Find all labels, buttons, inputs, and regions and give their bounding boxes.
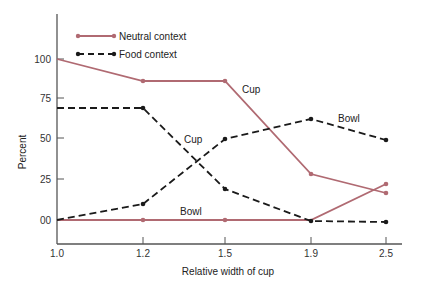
legend: Neutral context Food context (76, 31, 187, 60)
x-tick-label: 1.0 (50, 248, 64, 259)
y-tick-label: 25 (40, 174, 52, 185)
annotation-food-cup: Cup (184, 134, 203, 145)
annotation-neutral-cup: Cup (242, 84, 261, 95)
annotation-food-bowl: Bowl (338, 113, 360, 124)
x-tick-label: 1.5 (218, 248, 232, 259)
y-tick-label: 75 (40, 93, 52, 104)
legend-neutral-label: Neutral context (119, 31, 186, 42)
y-axis-label: Percent (17, 135, 28, 170)
annotation-neutral-bowl: Bowl (180, 206, 202, 217)
line-chart: 100 75 50 25 00 1.0 1.2 1.5 1.9 2.5 Rela… (0, 0, 422, 291)
x-tick-label: 2.5 (379, 248, 393, 259)
x-tick-label: 1.2 (136, 248, 150, 259)
x-ticks: 1.0 1.2 1.5 1.9 2.5 (50, 237, 393, 259)
y-tick-label: 50 (40, 133, 52, 144)
y-tick-label: 00 (40, 215, 52, 226)
x-axis-label: Relative width of cup (182, 266, 275, 277)
legend-food-label: Food context (119, 49, 177, 60)
y-ticks: 100 75 50 25 00 (34, 54, 64, 226)
x-tick-label: 1.9 (304, 248, 318, 259)
y-tick-label: 100 (34, 54, 51, 65)
